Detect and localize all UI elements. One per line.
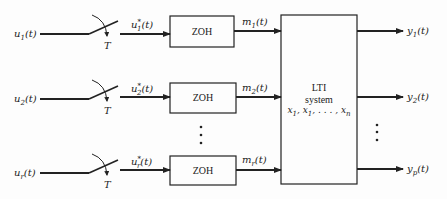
zoh-label-2: ZOH	[170, 93, 236, 103]
output-label-1: y1(t)	[407, 26, 429, 39]
sampled-label-r: u*r(t)	[131, 156, 152, 170]
zoh-label-1: ZOH	[170, 27, 234, 37]
output-label-p: yp(t)	[407, 164, 429, 177]
sampler-period-label-r: T	[104, 180, 111, 190]
held-label-1: m1(t)	[242, 17, 268, 30]
zoh-label-r: ZOH	[170, 166, 236, 176]
system-subtitle: system	[281, 95, 357, 105]
input-label-1: u1(t)	[14, 29, 37, 42]
held-label-r: mr(t)	[242, 155, 267, 168]
sampled-label-2: u*2(t)	[131, 83, 153, 97]
sampler-period-label-1: T	[104, 41, 111, 51]
outputs	[357, 31, 403, 169]
sampled-label-1: u*1(t)	[131, 19, 153, 33]
input-label-2: u2(t)	[14, 94, 37, 107]
ellipsis-inputs	[200, 126, 203, 145]
system-title: LTI	[281, 83, 357, 93]
sampler-period-label-2: T	[104, 106, 111, 116]
input-label-r: ur(t)	[14, 168, 36, 181]
block-diagram: u1(t) u2(t) ur(t) T T T u*1(t) u*2(t) u*…	[0, 0, 447, 199]
output-label-2: y2(t)	[407, 92, 429, 105]
held-label-2: m2(t)	[242, 83, 268, 96]
system-states: x1, x1, . . . , xn	[281, 106, 357, 118]
